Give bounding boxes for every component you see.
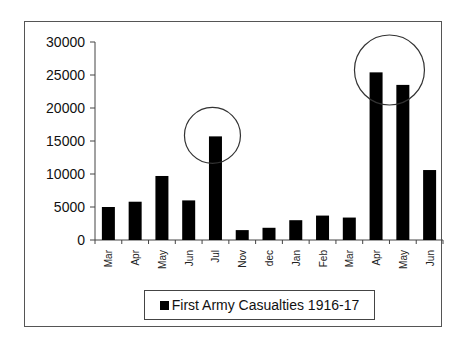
bar — [343, 218, 356, 240]
x-tick-label: Apr — [130, 249, 141, 265]
x-tick-label: Feb — [318, 250, 329, 268]
y-tick-label: 10000 — [46, 166, 85, 182]
x-tick-label: Nov — [237, 250, 248, 268]
annotation-circle — [354, 35, 424, 105]
bar — [396, 85, 409, 240]
x-tick-label: Jan — [291, 250, 302, 266]
y-tick-label: 25000 — [46, 67, 85, 83]
x-tick-label: Mar — [103, 249, 114, 267]
bar — [236, 230, 249, 240]
x-tick-label: dec — [264, 250, 275, 266]
bar — [423, 170, 436, 240]
bar — [289, 220, 302, 240]
x-tick-label: May — [157, 250, 168, 269]
x-tick-label: Apr — [371, 249, 382, 265]
y-tick-label: 5000 — [54, 199, 85, 215]
bar — [182, 200, 195, 240]
bar — [370, 72, 383, 240]
bar — [209, 136, 222, 240]
y-tick-label: 15000 — [46, 133, 85, 149]
bar — [155, 176, 168, 240]
legend-swatch — [160, 301, 169, 310]
legend-label: First Army Casualties 1916-17 — [172, 297, 360, 313]
bar — [129, 202, 142, 240]
bar — [316, 216, 329, 240]
x-tick-label: Mar — [344, 249, 355, 267]
x-tick-label: Jul — [210, 250, 221, 263]
y-tick-label: 30000 — [46, 34, 85, 50]
legend: First Army Casualties 1916-17 — [144, 290, 375, 320]
bar — [263, 228, 276, 240]
x-tick-label: Jun — [184, 250, 195, 266]
x-tick-label: Jun — [425, 250, 436, 266]
bar — [102, 207, 115, 240]
y-tick-label: 20000 — [46, 100, 85, 116]
y-tick-label: 0 — [77, 232, 85, 248]
x-tick-label: May — [398, 250, 409, 269]
